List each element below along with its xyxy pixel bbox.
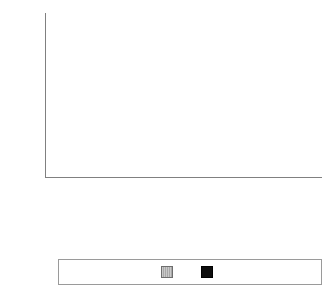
bar-series-group (46, 13, 322, 177)
legend-item-us[interactable] (201, 266, 219, 278)
x-axis-labels (46, 181, 322, 243)
legend-item-international[interactable] (161, 266, 179, 278)
intl-swatch-icon (161, 266, 173, 278)
stacked-bar-chart (0, 0, 329, 295)
us-swatch-icon (201, 266, 213, 278)
x-axis-line (45, 177, 322, 178)
chart-legend (58, 259, 322, 285)
plot-area (46, 13, 322, 177)
